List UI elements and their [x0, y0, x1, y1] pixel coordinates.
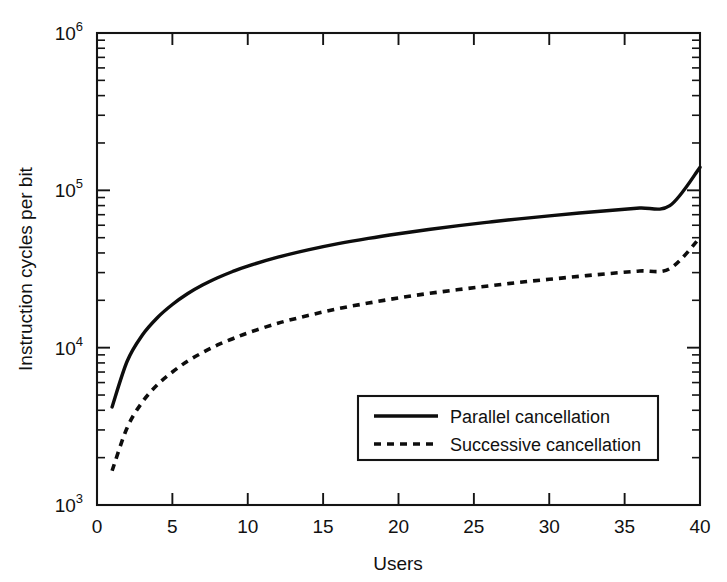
x-tick-label: 0 — [92, 516, 103, 537]
x-tick-label: 25 — [463, 516, 484, 537]
legend-label-parallel-cancellation: Parallel cancellation — [450, 407, 610, 427]
x-tick-label: 15 — [313, 516, 334, 537]
chart-figure: 103104105106 0510152025303540 Users Inst… — [0, 0, 727, 582]
x-tick-label: 20 — [388, 516, 409, 537]
legend-label-successive-cancellation: Successive cancellation — [450, 435, 641, 455]
x-tick-label: 5 — [167, 516, 178, 537]
x-tick-label: 10 — [237, 516, 258, 537]
x-tick-label: 35 — [614, 516, 635, 537]
figure-background — [0, 0, 727, 582]
x-tick-label: 30 — [539, 516, 560, 537]
x-tick-label: 40 — [689, 516, 710, 537]
legend: Parallel cancellation Successive cancell… — [358, 396, 658, 460]
x-axis-title: Users — [373, 553, 423, 574]
y-axis-title: Instruction cycles per bit — [15, 166, 36, 371]
